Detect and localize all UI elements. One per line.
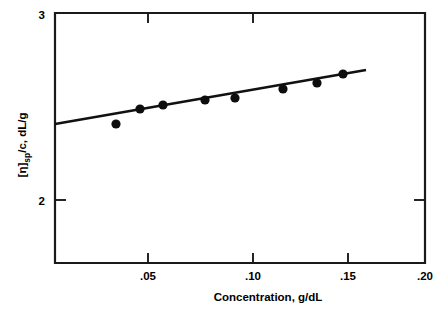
x-tick-label-020: .20: [417, 270, 433, 282]
fit-line: [55, 70, 366, 124]
x-axis-ticks: [148, 253, 348, 263]
data-point: [111, 119, 120, 128]
data-point: [200, 95, 209, 104]
data-point: [135, 104, 144, 113]
data-point: [158, 100, 167, 109]
chart-figure: 3 2 .05 .10 .15 .20 Concentration, g/dL …: [0, 0, 448, 316]
plot-frame: [55, 13, 425, 263]
data-point: [278, 84, 287, 93]
y-axis-title-rest: /c, dL/g: [16, 113, 28, 153]
x-axis-ticks-top: [148, 13, 253, 23]
y-axis-title-subscript: sp: [22, 153, 32, 163]
y-tick-label-3: 3: [39, 9, 45, 21]
viscosity-scatter-plot: 3 2 .05 .10 .15 .20 Concentration, g/dL …: [0, 0, 448, 316]
data-point: [338, 69, 347, 78]
data-point: [312, 78, 321, 87]
x-tick-label-010: .10: [245, 270, 261, 282]
y-axis-title-eta: η: [16, 167, 28, 174]
svg-text:[η]sp/c, dL/g: [η]sp/c, dL/g: [16, 113, 32, 178]
data-point: [230, 93, 239, 102]
y-tick-label-2: 2: [39, 195, 45, 207]
x-tick-label-015: .15: [340, 270, 357, 282]
x-axis-title: Concentration, g/dL: [214, 291, 323, 303]
x-tick-label-005: .05: [140, 270, 157, 282]
y-axis-title: [η]sp/c, dL/g: [16, 113, 32, 178]
